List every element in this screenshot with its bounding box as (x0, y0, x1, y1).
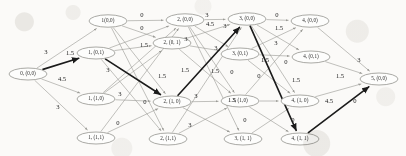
edge-weight-label: 0 (140, 11, 144, 18)
node-label: 1, (0,1) (88, 49, 104, 56)
node-label: 4, (0,0) (302, 17, 318, 24)
graph-node[interactable]: 2, (1,1) (149, 133, 187, 145)
node-label: 2, (0,0) (177, 16, 193, 23)
edge-weight-label: 3 (223, 22, 227, 29)
edge-weight-label: 1.5 (292, 76, 301, 83)
graph-node[interactable]: 2, (1, 0) (153, 96, 191, 108)
edge-weight-label: 0 (243, 116, 247, 123)
node-label: 4, (1, 1) (291, 135, 308, 142)
graph-edge (35, 81, 87, 130)
graph-edge (122, 26, 155, 37)
graph-node[interactable]: 5, (0,0) (360, 73, 398, 85)
edge-weight-label: 4.5 (58, 75, 67, 82)
node-label: 2, (1, 0) (163, 98, 180, 105)
graph-node[interactable]: 0, (0,0) (9, 68, 47, 80)
graph-node[interactable]: 4, (0,1) (292, 51, 330, 63)
graph-node[interactable]: 1, (1,0) (77, 93, 115, 105)
graph-canvas: 0, (0,0)1(0,0)1, (0,1)1, (1,0)1, (1,1)2,… (0, 0, 406, 156)
highlight-edge (308, 87, 368, 133)
edge-weight-label: 3 (194, 92, 198, 99)
graph-node[interactable]: 3, (1,0) (221, 95, 259, 107)
edge-weight-label: 1.5 (181, 66, 190, 73)
edge-weight-label: 1.5 (275, 24, 284, 31)
edge-weight-label: 1.5 (261, 56, 270, 63)
edge-weight-label: 1.5 (336, 72, 345, 79)
node-label: 3, (1, 1) (234, 135, 251, 142)
graph-edge (318, 28, 370, 71)
highlight-path-layer (43, 26, 369, 133)
edge-weight-label: 0 (291, 116, 295, 123)
node-label: 2, (1,1) (160, 135, 176, 142)
edge-weight-label: 0 (353, 97, 357, 104)
edge-layer (35, 19, 370, 133)
edge-weight-label: 1.5 (140, 41, 149, 48)
graph-node[interactable]: 4, (1, 0) (281, 95, 319, 107)
edge-weight-label: 1.5 (158, 72, 167, 79)
graph-node[interactable]: 1, (1,1) (77, 132, 115, 144)
edge-weight-label: 4.5 (206, 20, 215, 27)
edge-weight-label: 0 (116, 119, 120, 126)
graph-node[interactable]: 4, (0,0) (291, 15, 329, 27)
edge-weight-label: 0 (230, 68, 234, 75)
graph-node[interactable]: 1, (0,1) (77, 47, 115, 59)
node-label: 3, (0,0) (239, 15, 255, 22)
node-label: 1(0,0) (102, 17, 115, 24)
edge-weight-label: 3 (214, 44, 218, 51)
edge-weight-label: 1.5 (66, 49, 75, 56)
graph-edge (316, 84, 361, 97)
edge-weight-label: 0 (284, 58, 288, 65)
graph-edge (267, 20, 288, 21)
edge-weight-label: 3 (44, 48, 48, 55)
edge-weight-label: 0 (140, 24, 144, 31)
graph-edge (252, 26, 295, 92)
node-label: 4, (1, 0) (291, 97, 308, 104)
node-label: 0, (0,0) (20, 70, 36, 77)
graph-node[interactable]: 3, (1, 1) (224, 133, 262, 145)
graph-node[interactable]: 3, (0,0) (228, 13, 266, 25)
node-label: 3, (0,1) (232, 50, 248, 57)
edge-weight-label: 4.5 (325, 97, 334, 104)
graph-node[interactable]: 1(0,0) (89, 15, 127, 27)
graph-node[interactable]: 3, (0,1) (221, 48, 259, 60)
edge-weight-label: 3 (118, 90, 122, 97)
graph-edge (250, 107, 289, 131)
graph-node[interactable]: 2, (0,0) (166, 14, 204, 26)
node-label: 4, (0,1) (303, 53, 319, 60)
graph-figure: 0, (0,0)1(0,0)1, (0,1)1, (1,0)1, (1,1)2,… (0, 0, 406, 156)
highlight-edge (43, 58, 79, 69)
edge-weight-label: 3 (205, 11, 209, 18)
node-label: 5, (0,0) (371, 75, 387, 82)
edge-weight-label: 3 (274, 39, 278, 46)
node-label: 1, (1,1) (88, 134, 104, 141)
graph-edge (105, 51, 162, 93)
edge-weight-label: 1.5 (228, 96, 237, 103)
graph-edge (195, 26, 228, 46)
node-label: 1, (1,0) (88, 95, 104, 102)
edge-weight-label: 0 (275, 11, 279, 18)
edge-weight-label: 3 (357, 56, 361, 63)
node-label: 2, (0, 1) (163, 39, 180, 46)
graph-edge (248, 60, 290, 93)
graph-node[interactable]: 4, (1, 1) (281, 133, 319, 145)
edge-weight-label: 1.5 (211, 67, 220, 74)
